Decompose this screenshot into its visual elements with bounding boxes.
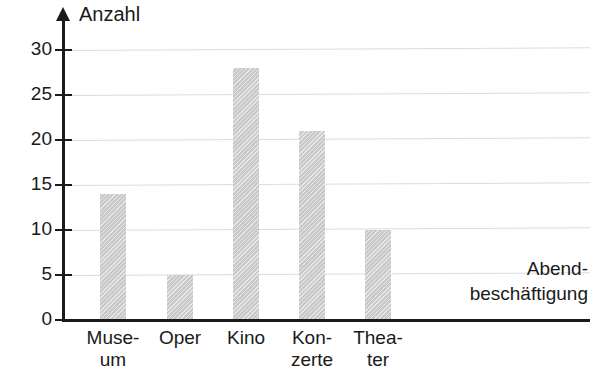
x-tick-label-theater: Thea- ter: [338, 327, 418, 372]
y-axis-line: [62, 18, 65, 322]
y-tick-5: [55, 274, 72, 276]
x-axis-line: [62, 319, 590, 322]
bar-konzerte: [299, 131, 325, 320]
y-axis-title: Anzahl: [79, 3, 140, 26]
gridline-10: [64, 227, 590, 231]
y-tick-30: [55, 49, 72, 51]
gridline-15: [64, 182, 590, 186]
y-tick-10: [55, 229, 72, 231]
x-axis-title-line2: beschäftigung: [438, 281, 588, 306]
y-tick-label-20: 20: [4, 129, 52, 148]
y-tick-25: [55, 94, 72, 96]
y-axis-arrow-icon: [56, 7, 70, 21]
y-tick-20: [55, 139, 72, 141]
bar-kino: [233, 68, 259, 320]
gridline-20: [64, 137, 590, 141]
y-tick-label-10: 10: [4, 219, 52, 238]
gridline-30: [64, 47, 590, 51]
bar-theater: [365, 230, 391, 320]
y-tick-label-25: 25: [4, 84, 52, 103]
plot-area: 0 5 10 15 20 25 30 Anzahl Muse- um Oper …: [0, 0, 590, 386]
y-tick-label-30: 30: [4, 39, 52, 58]
gridline-25: [64, 92, 590, 96]
x-tick-label-oper-line1: Oper: [159, 327, 201, 348]
x-tick-label-museum-line2: um: [73, 349, 153, 371]
y-tick-label-5: 5: [4, 264, 52, 283]
y-tick-label-0: 0: [4, 309, 52, 328]
bar-chart: 0 5 10 15 20 25 30 Anzahl Muse- um Oper …: [0, 0, 590, 386]
x-tick-label-kino-line1: Kino: [227, 327, 265, 348]
bar-oper: [167, 275, 193, 320]
x-tick-label-museum-line1: Muse-: [87, 327, 140, 348]
x-tick-label-theater-line1: Thea-: [353, 327, 403, 348]
y-tick-0: [55, 319, 72, 321]
x-tick-label-konzerte-line1: Kon-: [292, 327, 332, 348]
x-tick-label-theater-line2: ter: [338, 349, 418, 371]
y-tick-15: [55, 184, 72, 186]
bar-museum: [100, 194, 126, 320]
x-axis-title: Abend- beschäftigung: [438, 256, 588, 306]
y-tick-label-15: 15: [4, 174, 52, 193]
x-axis-title-line1: Abend-: [527, 258, 588, 279]
